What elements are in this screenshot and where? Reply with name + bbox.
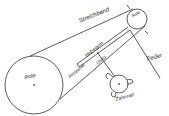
mechanism-diagram: Streichband Rolle Hebelarm Feder Rolle F… <box>0 0 169 116</box>
